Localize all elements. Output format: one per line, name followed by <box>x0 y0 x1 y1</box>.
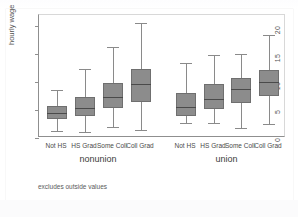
median-line <box>259 82 279 83</box>
box-plot-item <box>47 15 67 138</box>
box-plot-item <box>259 15 279 138</box>
upper-whisker-cap <box>51 90 63 91</box>
median-line <box>103 97 123 98</box>
median-line <box>75 108 95 109</box>
y-tick-mark <box>35 82 39 83</box>
plot-area: 05101520 <box>38 14 285 137</box>
lower-whisker <box>241 103 242 128</box>
iqr-box <box>176 93 196 115</box>
lower-whisker-cap <box>235 128 247 129</box>
y-tick-mark <box>35 138 39 139</box>
median-line <box>47 113 67 114</box>
page-top-artifact <box>0 0 298 9</box>
upper-whisker <box>241 54 242 78</box>
boxplot-figure: hourly wage 05101520 Not HSHS GradSome C… <box>0 0 298 217</box>
upper-whisker <box>186 63 187 94</box>
lower-whisker-cap <box>51 131 63 132</box>
lower-whisker <box>113 108 114 127</box>
y-tick-mark <box>35 54 39 55</box>
upper-whisker <box>269 35 270 70</box>
lower-whisker <box>214 109 215 124</box>
page-bottom-band <box>0 200 298 217</box>
box-plot-item <box>103 15 123 138</box>
box-plot-item <box>75 15 95 138</box>
upper-whisker-cap <box>180 63 192 64</box>
lower-whisker-cap <box>180 123 192 124</box>
lower-whisker-cap <box>208 123 220 124</box>
lower-whisker-cap <box>107 127 119 128</box>
box-plot-item <box>176 15 196 138</box>
x-category-label: Coll Grad <box>115 142 165 150</box>
x-group-label: nonunion <box>58 154 138 165</box>
box-plot-item <box>231 15 251 138</box>
box-plot-item <box>204 15 224 138</box>
upper-whisker-cap <box>263 35 275 36</box>
box-plot-item <box>131 15 151 138</box>
upper-whisker <box>141 23 142 69</box>
upper-whisker-cap <box>107 47 119 48</box>
lower-whisker <box>57 119 58 131</box>
upper-whisker <box>57 90 58 106</box>
upper-whisker-cap <box>208 55 220 56</box>
lower-whisker-cap <box>135 130 147 131</box>
lower-whisker-cap <box>263 124 275 125</box>
lower-whisker <box>186 116 187 123</box>
upper-whisker-cap <box>135 23 147 24</box>
median-line <box>231 89 251 90</box>
x-category-label: Coll Grad <box>243 142 293 150</box>
upper-whisker <box>113 47 114 83</box>
iqr-box <box>231 78 251 104</box>
iqr-box <box>75 97 95 115</box>
lower-whisker <box>141 102 142 131</box>
upper-whisker <box>85 69 86 98</box>
y-tick-mark <box>35 110 39 111</box>
upper-whisker <box>214 55 215 84</box>
lower-whisker <box>85 116 86 132</box>
median-line <box>176 107 196 108</box>
iqr-box <box>131 69 151 102</box>
median-line <box>204 99 224 100</box>
upper-whisker-cap <box>79 69 91 70</box>
median-line <box>131 84 151 85</box>
lower-whisker <box>269 96 270 125</box>
x-group-label: union <box>187 154 267 165</box>
y-axis-label: hourly wage <box>8 5 16 45</box>
lower-whisker-cap <box>79 132 91 133</box>
upper-whisker-cap <box>235 54 247 55</box>
iqr-box <box>204 84 224 109</box>
y-tick-mark <box>35 26 39 27</box>
chart-footnote: excludes outside values <box>38 183 107 191</box>
